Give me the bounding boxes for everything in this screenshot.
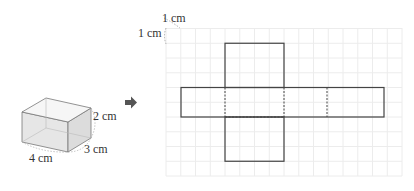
right-arrow-icon <box>125 97 137 109</box>
box-label-height: 2 cm <box>93 109 117 123</box>
scale-indicator: 1 cm 1 cm <box>138 11 186 44</box>
figure-canvas: 1 cm 1 cm <box>0 0 414 191</box>
cuboid-drawing: 2 cm 3 cm 4 cm <box>22 98 117 165</box>
scale-label-vertical: 1 cm <box>138 26 162 40</box>
box-label-width: 4 cm <box>29 151 53 165</box>
box-label-depth: 3 cm <box>84 142 108 156</box>
scale-label-horizontal: 1 cm <box>162 11 186 25</box>
